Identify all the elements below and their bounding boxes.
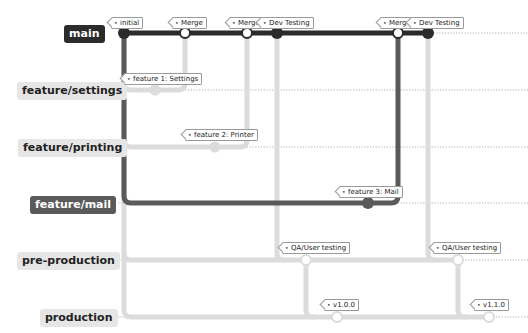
commit-feature-2[interactable] — [210, 142, 221, 153]
tag-feature-1: feature 1: Settings — [124, 73, 202, 85]
tag-dev-testing-2: Dev Testing — [410, 17, 464, 29]
tag-qa-1: QA/User testing — [282, 242, 350, 254]
branch-label-feature-mail: feature/mail — [30, 196, 116, 214]
branch-label-main: main — [64, 25, 105, 43]
commit-merge-settings[interactable] — [180, 28, 190, 38]
commit-feature-1[interactable] — [150, 85, 161, 96]
commit-merge-printing[interactable] — [242, 28, 252, 38]
feature-mail-line — [124, 33, 398, 203]
tag-release-2: v1.1.0 — [474, 299, 509, 311]
commit-merge-mail[interactable] — [393, 28, 403, 38]
commit-feature-3[interactable] — [362, 197, 374, 209]
commit-release-1[interactable] — [332, 312, 342, 322]
branch-label-pre-production: pre-production — [17, 252, 120, 270]
tag-release-1: v1.0.0 — [324, 299, 359, 311]
tag-initial: initial — [111, 17, 143, 29]
branch-label-feature-settings: feature/settings — [17, 82, 127, 100]
tag-merge-settings: Merge — [172, 17, 207, 29]
tag-feature-3: feature 3: Mail — [339, 186, 403, 198]
commit-qa-1[interactable] — [301, 255, 311, 265]
git-branch-diagram — [0, 0, 528, 333]
tag-qa-2: QA/User testing — [433, 242, 501, 254]
commit-qa-2[interactable] — [453, 255, 463, 265]
tag-feature-2: feature 2: Printer — [185, 129, 258, 141]
branch-label-production: production — [40, 309, 118, 327]
tag-dev-testing-1: Dev Testing — [260, 17, 314, 29]
branch-label-feature-printing: feature/printing — [18, 139, 127, 157]
commit-release-2[interactable] — [484, 312, 494, 322]
